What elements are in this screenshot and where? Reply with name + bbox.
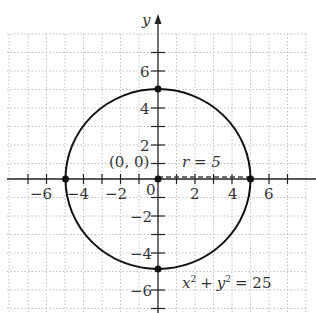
x-tick-labels: −6 −4 −2 0 2 4 6 [30, 181, 274, 203]
svg-text:−6: −6 [130, 282, 152, 300]
svg-text:−4: −4 [130, 245, 152, 263]
svg-text:−2: −2 [130, 208, 152, 226]
point-right [247, 176, 254, 183]
svg-text:4: 4 [228, 185, 238, 203]
svg-text:0: 0 [146, 181, 156, 199]
point-center [155, 176, 162, 183]
y-axis-arrow-icon [155, 14, 162, 24]
center-label: (0, 0) [109, 153, 149, 171]
svg-text:4: 4 [140, 100, 150, 118]
circle-diagram: y −6 −4 −2 0 2 4 6 6 4 2 −2 −4 −6 (0, 0)… [0, 0, 316, 313]
svg-text:−2: −2 [105, 185, 127, 203]
equation-label: x2+y2= 25 [182, 274, 271, 292]
svg-text:x2+y2= 25: x2+y2= 25 [182, 274, 271, 292]
svg-text:−6: −6 [30, 185, 52, 203]
svg-text:2: 2 [190, 185, 200, 203]
coordinate-plane: y −6 −4 −2 0 2 4 6 6 4 2 −2 −4 −6 (0, 0)… [0, 0, 316, 313]
point-left [62, 176, 69, 183]
point-bottom [155, 266, 162, 273]
svg-text:−4: −4 [67, 185, 89, 203]
y-axis-label: y [141, 11, 151, 29]
svg-text:6: 6 [140, 63, 150, 81]
radius-label: r = 5 [182, 153, 221, 171]
svg-text:6: 6 [264, 185, 274, 203]
point-top [155, 86, 162, 93]
